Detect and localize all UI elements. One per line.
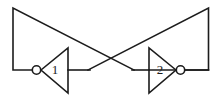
gate-label-1: 1: [52, 62, 59, 77]
inverter-gate-1: 1: [32, 48, 68, 93]
circuit-canvas: Cross-coupled inverter pair (bistable la…: [0, 0, 222, 98]
inversion-bubble-icon-2: [176, 66, 184, 74]
wire-gate1-input-feedback: [13, 8, 134, 70]
inversion-bubble-icon-1: [32, 66, 40, 74]
circuit-diagram: Cross-coupled inverter pair (bistable la…: [0, 0, 222, 98]
gate-label-2: 2: [157, 62, 164, 77]
